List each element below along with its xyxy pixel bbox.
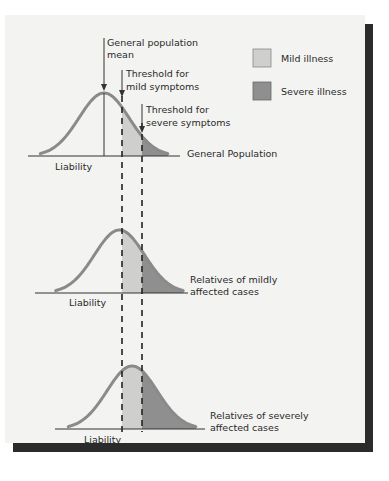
legend-swatch-mild <box>253 49 271 67</box>
mild-illness-area <box>122 366 142 429</box>
legend-label-mild: Mild illness <box>281 53 333 64</box>
panel-name-mild-relatives-2: affected cases <box>190 286 259 297</box>
figure-panel <box>5 15 365 443</box>
severe-threshold-label-2: severe symptoms <box>146 117 230 128</box>
liability-threshold-diagram: General population mean Threshold for mi… <box>0 0 389 481</box>
axis-label-liability-2: Liability <box>69 297 106 308</box>
mild-threshold-label-2: mild symptoms <box>126 81 199 92</box>
severe-threshold-label-1: Threshold for <box>145 104 209 115</box>
mean-label-1: General population <box>107 37 198 48</box>
panel-name-mild-relatives-1: Relatives of mildly <box>190 274 278 285</box>
panel-name-severe-relatives-1: Relatives of severely <box>210 410 309 421</box>
legend-swatch-severe <box>253 82 271 100</box>
mean-label-2: mean <box>107 49 134 60</box>
legend-label-severe: Severe illness <box>281 86 347 97</box>
mild-threshold-label-1: Threshold for <box>125 68 189 79</box>
axis-label-liability-3: Liability <box>84 434 121 445</box>
panel-name-general-population: General Population <box>187 148 277 159</box>
panel-name-severe-relatives-2: affected cases <box>210 422 279 433</box>
axis-label-liability-1: Liability <box>55 161 92 172</box>
